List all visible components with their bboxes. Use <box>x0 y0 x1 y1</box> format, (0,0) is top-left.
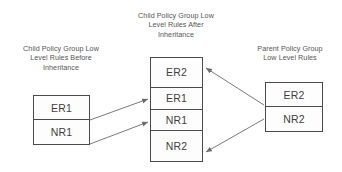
box-parent-rules: ER2 NR2 <box>265 82 323 132</box>
arrow-right-nr2-to-middle-nr2 <box>206 119 264 152</box>
box-child-before-inheritance: ER1 NR1 <box>33 95 90 145</box>
cell-mid-er1: ER1 <box>151 88 202 110</box>
box-child-after-inheritance: ER2 ER1 NR1 NR2 <box>150 57 203 162</box>
caption-parent-rules: Parent Policy Group Low Level Rules <box>240 44 340 63</box>
caption-child-after-inheritance: Child Policy Group Low Level Rules After… <box>117 11 235 39</box>
inheritance-diagram: Child Policy Group Low Level Rules Befor… <box>0 0 342 172</box>
arrow-left-nr1-to-middle-nr1 <box>90 122 148 144</box>
cell-mid-er2: ER2 <box>151 58 202 88</box>
arrow-right-er2-to-middle-er2 <box>206 68 264 105</box>
caption-child-before-inheritance: Child Policy Group Low Level Rules Befor… <box>2 44 120 72</box>
arrow-left-er1-to-middle-er1 <box>90 99 148 120</box>
cell-mid-nr2: NR2 <box>151 131 202 161</box>
cell-mid-nr1: NR1 <box>151 110 202 132</box>
cell-right-er2: ER2 <box>266 83 322 107</box>
cell-right-nr2: NR2 <box>266 107 322 131</box>
cell-left-nr1: NR1 <box>34 120 89 144</box>
cell-left-er1: ER1 <box>34 96 89 120</box>
